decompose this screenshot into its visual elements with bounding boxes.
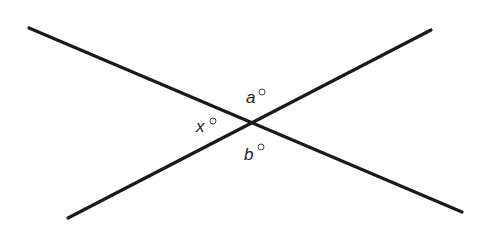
degree-symbol-icon [210,118,216,124]
angle-variable-b: b [244,145,253,164]
line-2 [68,30,431,218]
angle-label-b: b [244,144,264,164]
angle-label-a: a [246,88,265,107]
degree-symbol-icon [259,89,265,95]
angle-label-x: x [195,117,216,136]
angle-variable-x: x [195,117,205,136]
diagram-canvas: a x b [0,0,491,232]
line-1 [29,28,462,212]
degree-symbol-icon [258,144,264,150]
angle-variable-a: a [246,88,255,107]
